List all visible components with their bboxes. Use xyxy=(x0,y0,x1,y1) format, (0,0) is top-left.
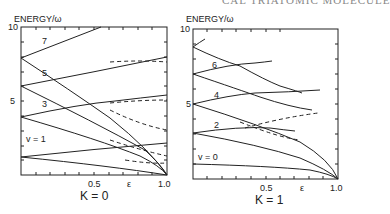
xtick-0.5-left: 0.5 xyxy=(88,179,101,189)
level-label-6: 6 xyxy=(212,60,217,70)
panel-title-right: K = 1 xyxy=(255,193,284,207)
level-label-v0: v = 0 xyxy=(198,152,218,162)
ytick-5-left: 5 xyxy=(10,96,15,106)
ylabel-right: ENERGY/ω xyxy=(186,14,234,24)
ytick-10-right: 10 xyxy=(180,24,190,34)
panel-k0: ENERGY/ω 10 5 7 5 3 v = 1 0.5 ε 1.0 K = … xyxy=(8,14,171,203)
panel-k1: ENERGY/ω 10 5 6 4 2 v = 0 0.5 ε 1.0 K = … xyxy=(180,14,343,207)
level-label-7: 7 xyxy=(42,36,47,46)
xlabel-right: ε xyxy=(300,183,304,193)
level-label-2: 2 xyxy=(214,120,219,130)
panel-title-left: K = 0 xyxy=(80,189,109,203)
ylabel-left: ENERGY/ω xyxy=(14,14,62,24)
xlabel-left: ε xyxy=(127,179,131,189)
level-label-4: 4 xyxy=(214,90,219,100)
xtick-0.5-right: 0.5 xyxy=(260,183,273,193)
ytick-5-right: 5 xyxy=(186,99,191,109)
xtick-1.0-left: 1.0 xyxy=(158,179,171,189)
level-label-v1: v = 1 xyxy=(26,134,46,144)
xtick-1.0-right: 1.0 xyxy=(330,183,343,193)
level-label-3: 3 xyxy=(42,99,47,109)
level-label-5: 5 xyxy=(42,68,47,78)
ytick-10-left: 10 xyxy=(8,22,18,32)
